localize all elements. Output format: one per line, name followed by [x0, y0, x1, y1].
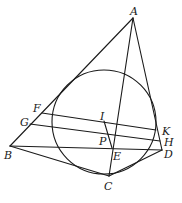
point-label-p: P [98, 135, 107, 148]
segment-bd [10, 146, 162, 150]
segment-ad [133, 18, 162, 150]
point-label-g: G [20, 116, 29, 129]
point-label-f: F [32, 102, 41, 115]
point-label-i: I [99, 110, 105, 123]
point-label-e: E [112, 150, 121, 163]
segment-bc [10, 146, 109, 176]
segments [10, 18, 162, 176]
point-label-d: D [163, 148, 173, 161]
segment-gh [30, 124, 160, 141]
point-label-k: K [161, 125, 171, 138]
point-label-b: B [3, 149, 12, 162]
geometry-diagram: ABCDEFGHIKP [0, 0, 182, 203]
point-label-a: A [129, 5, 138, 18]
point-label-c: C [104, 180, 113, 193]
point-labels: ABCDEFGHIKP [3, 5, 174, 193]
